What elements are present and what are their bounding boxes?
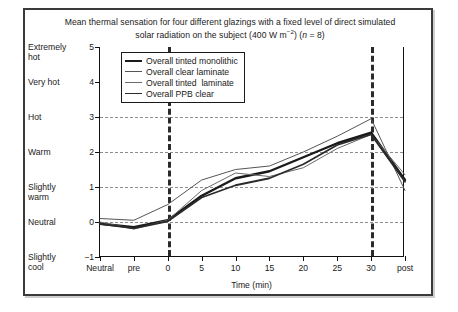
y-axis-category-warm: Warm (28, 147, 86, 157)
legend-item-3: Overall PPB clear (125, 88, 238, 99)
x-tick-label-15: 15 (265, 263, 275, 273)
figure-frame: Mean thermal sensation for four differen… (23, 8, 433, 296)
figure-title-line-2-part-c: = 8) (307, 30, 325, 40)
x-tick-label-20: 20 (299, 263, 309, 273)
x-tick-label-30: 30 (366, 263, 376, 273)
y-axis-category-slightly-warm: Slightlywarm (28, 182, 86, 202)
y-axis-category-slightly-cool: Slightlycool (28, 252, 86, 272)
legend-label-2: Overall tinted laminate (146, 78, 234, 88)
legend-label-0: Overall tinted monolithic (146, 56, 238, 66)
y-tick-label-5: 5 (89, 42, 94, 52)
y-axis-category-neutral: Neutral (28, 217, 86, 227)
figure-title-line-1: Mean thermal sensation for four differen… (65, 17, 396, 27)
legend-item-0: Overall tinted monolithic (125, 55, 238, 66)
x-tick-label-10: 10 (231, 263, 241, 273)
legend-label-3: Overall PPB clear (146, 89, 214, 99)
series-line-0 (100, 133, 405, 228)
series-line-1 (100, 119, 405, 221)
x-tick-label-post: post (397, 263, 413, 273)
y-tick-label-2: 2 (89, 147, 94, 157)
y-tick-label-3: 3 (89, 112, 94, 122)
figure-title-line-2-part-a: solar radiation on the subject (400 W m (135, 30, 286, 40)
y-axis-category-hot: Hot (28, 112, 86, 122)
legend-item-1: Overall clear laminate (125, 66, 238, 77)
x-tick-post (405, 256, 406, 261)
x-tick-label-Neutral: Neutral (86, 263, 114, 273)
y-tick-label-0: 0 (89, 217, 94, 227)
y-axis-category-very hot: Very hot (28, 77, 86, 87)
x-tick-label-pre: pre (128, 263, 140, 273)
x-tick-label-25: 25 (332, 263, 342, 273)
legend-item-2: Overall tinted laminate (125, 77, 238, 88)
y-tick-label-4: 4 (89, 77, 94, 87)
legend-swatch-0 (125, 60, 142, 62)
x-axis-title: Time (min) (100, 280, 403, 290)
figure-title: Mean thermal sensation for four differen… (31, 16, 429, 41)
legend-label-1: Overall clear laminate (146, 67, 229, 77)
legend-swatch-1 (125, 71, 142, 72)
chart-legend: Overall tinted monolithicOverall clear l… (121, 52, 245, 103)
x-tick-label-0: 0 (165, 263, 170, 273)
figure-title-line-2-part-b: ) ( (294, 30, 302, 40)
legend-swatch-3 (125, 93, 142, 94)
figure-title-exponent: −2 (287, 28, 294, 35)
y-axis-category-extremely-hot: Extremelyhot (28, 42, 86, 62)
y-tick-label-1: 1 (89, 182, 94, 192)
legend-swatch-2 (125, 82, 142, 83)
x-tick-label-5: 5 (199, 263, 204, 273)
